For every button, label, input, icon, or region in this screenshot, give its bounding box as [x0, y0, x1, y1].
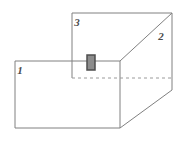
face-label-3: 3: [73, 16, 80, 28]
face-label-2: 2: [157, 30, 164, 42]
wireframe-box-diagram: 1 2 3: [0, 0, 186, 141]
upper-diagonal-edge-line: [120, 13, 172, 61]
lower-diagonal-edge-line: [120, 90, 172, 128]
gray-block-marker: [87, 55, 95, 70]
figure-container: 1 2 3: [0, 0, 186, 141]
face-label-1: 1: [17, 64, 23, 76]
